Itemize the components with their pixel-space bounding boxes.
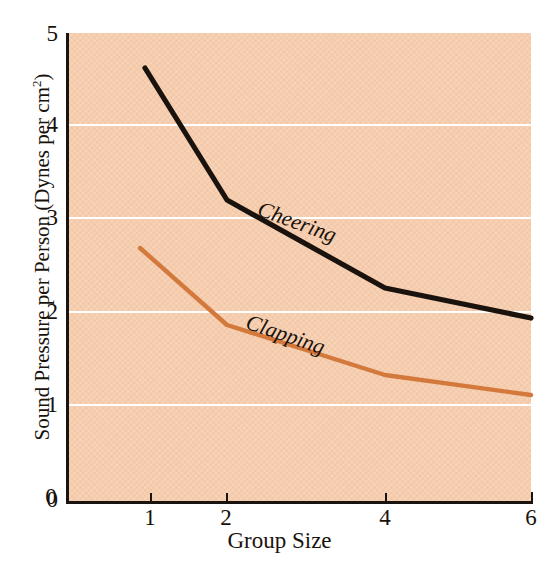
x-axis-title: Group Size bbox=[0, 528, 559, 554]
chart-figure: 5 4 3 2 1 0 0 1 2 4 6 Cheering Clapping … bbox=[0, 0, 559, 564]
y-axis-title-superscript: 2 bbox=[29, 81, 44, 88]
y-axis-title-text: Sound Pressure per Person (Dynes per cm bbox=[30, 87, 54, 440]
line-cheering bbox=[145, 68, 531, 318]
y-axis-title: Sound Pressure per Person (Dynes per cm2… bbox=[29, 47, 55, 467]
y-axis-title-suffix: ) bbox=[30, 74, 54, 81]
series-lines bbox=[0, 0, 559, 564]
line-clapping bbox=[140, 248, 531, 395]
